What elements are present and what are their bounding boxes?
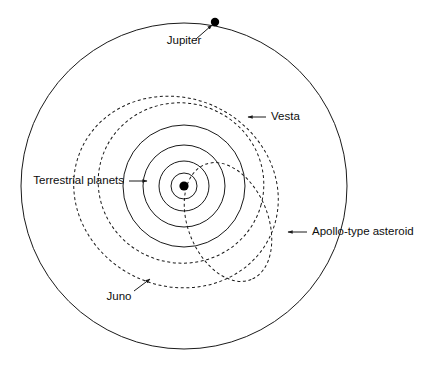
solar-system-orbit-diagram: Jupiter Vesta Terrestrial planets Apollo… bbox=[0, 0, 446, 367]
orbit-diagram-figure: Jupiter Vesta Terrestrial planets Apollo… bbox=[0, 0, 446, 367]
label-jupiter: Jupiter bbox=[167, 34, 202, 46]
label-vesta: Vesta bbox=[271, 110, 300, 122]
jupiter-marker bbox=[211, 18, 219, 26]
label-apollo-type-asteroid: Apollo-type asteroid bbox=[312, 225, 414, 237]
label-juno: Juno bbox=[107, 290, 132, 302]
juno-orbit-ellipse bbox=[42, 63, 310, 321]
leader-arrow-juno bbox=[134, 279, 150, 291]
sun-marker bbox=[179, 181, 188, 190]
label-terrestrial-planets: Terrestrial planets bbox=[33, 174, 124, 186]
apollo-type-asteroid-orbit-ellipse bbox=[168, 150, 289, 295]
annotation-leader-lines bbox=[129, 25, 307, 291]
